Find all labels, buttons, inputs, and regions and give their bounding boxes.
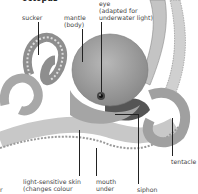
leader-mouth: [96, 148, 97, 176]
label-cutoff-left: r: [0, 186, 3, 193]
label-mouth-desc: under: [96, 185, 114, 192]
label-eye-desc1: (adapted for: [99, 7, 138, 14]
label-eye: eye: [99, 0, 110, 7]
label-tentacle: tentacle: [171, 158, 196, 165]
label-skin-desc: (changes colour: [23, 185, 73, 192]
diagram-title: octopus: [22, 0, 58, 3]
octopus-illustration: [0, 0, 198, 194]
leader-mantle: [82, 29, 83, 62]
leader-siphon-h: [115, 114, 139, 115]
leader-skin: [79, 130, 80, 176]
leader-eye: [101, 22, 102, 92]
leader-sucker: [38, 22, 39, 55]
label-sucker: sucker: [22, 14, 42, 21]
label-skin: light-sensitive skin: [23, 178, 81, 185]
label-mantle: mantle: [64, 14, 86, 21]
leader-tentacle: [172, 118, 173, 156]
label-mouth: mouth: [96, 178, 116, 185]
label-eye-desc2: underwater light): [99, 14, 153, 21]
label-mantle-body: (body): [64, 21, 84, 28]
leader-siphon: [138, 114, 139, 184]
label-siphon: siphon: [137, 186, 158, 193]
